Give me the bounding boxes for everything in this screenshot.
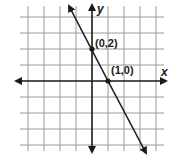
y-axis-label: y [96,2,105,16]
point-label: (1,0) [111,64,134,76]
point-marker [89,46,94,51]
point-label: (0,2) [95,37,118,49]
point-marker [105,78,110,83]
x-axis-label: x [160,65,169,79]
coordinate-graph: y x (0,2) (1,0) [0,0,175,159]
